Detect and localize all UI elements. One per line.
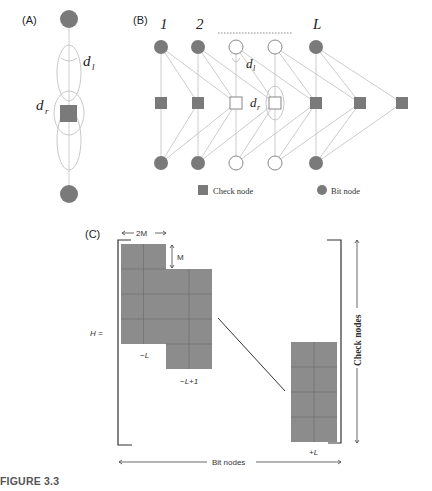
bit-node <box>309 156 323 170</box>
edges-top <box>161 47 402 103</box>
d-l-subscript: l <box>92 62 95 72</box>
panel-b-label: (B) <box>133 14 148 26</box>
panel-c: (C) 2M H = <box>85 228 363 467</box>
bit-node-empty <box>268 156 282 170</box>
panel-a: (A) d l d r <box>22 10 95 203</box>
figure-canvas: (A) d l d r (B) 1 2 L <box>0 0 432 491</box>
bit-node <box>191 40 205 54</box>
width-label-2m: 2M <box>136 229 147 238</box>
d-r-subscript: r <box>257 103 261 112</box>
d-l-label: d <box>246 56 253 71</box>
d-r-label: d <box>250 95 257 110</box>
panel-a-label: (A) <box>22 14 37 26</box>
bit-node-legend-label: Bit node <box>331 186 360 196</box>
check-node <box>310 97 322 109</box>
check-node <box>396 97 408 109</box>
block-label-plus-L: +L <box>309 448 318 457</box>
check-node-legend-icon <box>198 185 208 195</box>
bit-node-legend-icon <box>317 185 327 195</box>
d-l-subscript: l <box>253 64 256 73</box>
column-label-L: L <box>312 16 321 32</box>
block-label-minus-L: −L <box>140 351 149 360</box>
bit-node <box>60 185 78 203</box>
d-r-label: d <box>36 97 44 113</box>
column-label-1: 1 <box>160 16 168 32</box>
check-node-empty <box>269 97 281 109</box>
block-label-minus-L-plus-1: −L+1 <box>180 377 198 386</box>
panel-b: (B) 1 2 L <box>133 14 408 196</box>
height-label-m: M <box>177 253 184 262</box>
bit-nodes-axis-label: Bit nodes <box>212 458 245 467</box>
check-node <box>192 97 204 109</box>
bit-node <box>154 156 168 170</box>
bit-node-empty <box>268 40 282 54</box>
diagonal-ellipsis-line <box>218 318 285 391</box>
bit-node <box>154 40 168 54</box>
edges-bottom <box>161 103 402 163</box>
d-r-subscript: r <box>45 106 49 116</box>
figure-caption: FIGURE 3.3 <box>0 475 59 487</box>
block-plus-L <box>291 342 337 442</box>
check-node <box>354 97 366 109</box>
check-nodes-axis-label: Check nodes <box>353 314 363 366</box>
block-minus-L <box>121 244 166 344</box>
check-node <box>155 97 167 109</box>
bit-node-empty <box>229 156 243 170</box>
bit-node-empty <box>229 40 243 54</box>
block-minus-L-plus-1 <box>166 269 212 369</box>
column-label-2: 2 <box>196 16 204 32</box>
check-node <box>60 105 77 122</box>
matrix-label-h: H = <box>90 329 103 338</box>
check-node-empty <box>230 97 242 109</box>
panel-c-label: (C) <box>85 228 100 240</box>
height-arrow <box>170 245 174 268</box>
bit-node <box>309 40 323 54</box>
bit-node <box>191 156 205 170</box>
d-l-label: d <box>83 53 91 69</box>
bit-node <box>60 10 78 28</box>
check-node-legend-label: Check node <box>213 186 254 196</box>
